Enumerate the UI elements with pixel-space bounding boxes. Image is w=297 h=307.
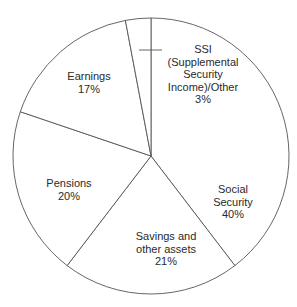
label-line: Social [213, 183, 253, 196]
label-value: 20% [46, 190, 91, 203]
label-line: Earnings [67, 70, 110, 83]
label-earnings: Earnings 17% [67, 70, 110, 95]
label-line: Income)/Other [168, 81, 239, 94]
label-savings: Savings and other assets 21% [136, 230, 197, 268]
label-value: 3% [168, 93, 239, 106]
label-value: 40% [213, 208, 253, 221]
label-value: 17% [67, 83, 110, 96]
label-line: SSI [168, 43, 239, 56]
label-line: other assets [136, 243, 197, 256]
label-social-security: Social Security 40% [213, 183, 253, 221]
label-line: Security [168, 68, 239, 81]
label-value: 21% [136, 255, 197, 268]
label-line: Savings and [136, 230, 197, 243]
label-line: Security [213, 196, 253, 209]
label-pensions: Pensions 20% [46, 177, 91, 202]
label-line: (Supplemental [168, 56, 239, 69]
label-line: Pensions [46, 177, 91, 190]
label-ssi-other: SSI (Supplemental Security Income)/Other… [168, 43, 239, 106]
